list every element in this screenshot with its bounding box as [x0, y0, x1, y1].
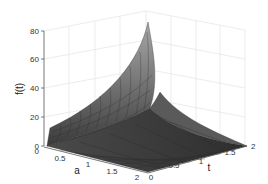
- z-tick-40: 40: [30, 84, 39, 93]
- a-axis-label: a: [74, 165, 80, 176]
- a-tick-0: 0: [35, 147, 40, 156]
- z-tick-60: 60: [30, 55, 39, 64]
- t-tick-0: 0: [149, 173, 154, 182]
- t-tick-1.5: 1.5: [224, 148, 236, 157]
- t-tick-1: 1: [199, 157, 204, 166]
- surface: [47, 22, 247, 172]
- surface-plot: 80 60 40 20 0 f(t) 0 0.5 1 1.5 2 a 0 0.5…: [0, 0, 268, 184]
- a-tick-1: 1: [86, 160, 91, 169]
- z-tick-20: 20: [30, 113, 39, 122]
- z-axis: 80 60 40 20 0 f(t): [14, 27, 44, 151]
- t-axis-label: t: [208, 162, 211, 173]
- t-tick-2: 2: [251, 142, 256, 151]
- t-tick-0.5: 0.5: [168, 161, 180, 170]
- a-tick-2: 2: [135, 173, 140, 182]
- a-tick-1.5: 1.5: [106, 167, 118, 176]
- z-tick-80: 80: [30, 27, 39, 36]
- a-tick-0.5: 0.5: [54, 154, 66, 163]
- z-axis-label: f(t): [14, 83, 25, 95]
